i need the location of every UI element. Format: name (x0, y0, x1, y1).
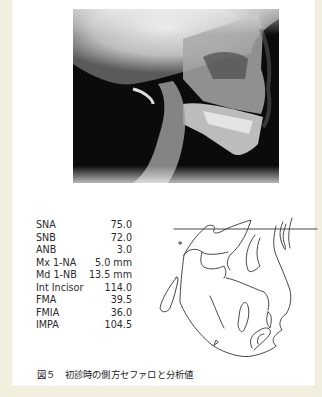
measure-value: 114.0 (105, 282, 132, 295)
table-row: IMPA104.5 (36, 319, 132, 332)
measure-label: FMA (36, 294, 56, 307)
cephalometric-xray-image (73, 9, 279, 183)
figure-caption: 図５ 初診時の側方セファロと分析値 (37, 367, 193, 381)
measure-value: 75.0 (111, 219, 132, 232)
table-row: FMA39.5 (36, 294, 132, 307)
measure-label: Int Incisor (36, 282, 83, 295)
table-row: FMIA36.0 (36, 307, 132, 320)
measure-label: Mx 1-NA (36, 257, 76, 270)
measure-value: 72.0 (111, 232, 132, 245)
measure-value: 36.0 (111, 307, 132, 320)
measure-label: Md 1-NB (36, 269, 77, 282)
table-row: SNB72.0 (36, 232, 132, 245)
cephalometric-tracing (152, 190, 322, 362)
figure-panel: SNA75.0 SNB72.0 ANB3.0 Mx 1-NA5.0 mm Md … (12, 0, 315, 386)
measure-label: SNA (36, 219, 56, 232)
measure-label: SNB (36, 232, 56, 245)
measure-value: 39.5 (111, 294, 132, 307)
measure-value: 104.5 (105, 319, 132, 332)
measure-label: IMPA (36, 319, 59, 332)
measure-label: ANB (36, 244, 56, 257)
table-row: Int Incisor114.0 (36, 282, 132, 295)
analysis-values-table: SNA75.0 SNB72.0 ANB3.0 Mx 1-NA5.0 mm Md … (36, 219, 132, 332)
measure-value: 3.0 (117, 244, 132, 257)
measure-label: FMIA (36, 307, 59, 320)
measure-value: 5.0 mm (95, 257, 132, 270)
table-row: Md 1-NB13.5 mm (36, 269, 132, 282)
measure-value: 13.5 mm (89, 269, 132, 282)
table-row: Mx 1-NA5.0 mm (36, 257, 132, 270)
table-row: SNA75.0 (36, 219, 132, 232)
table-row: ANB3.0 (36, 244, 132, 257)
